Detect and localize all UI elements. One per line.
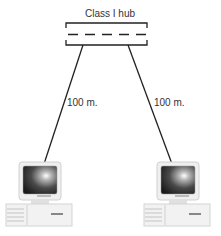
computer-right-icon bbox=[144, 162, 210, 226]
link-label-right: 100 m. bbox=[154, 97, 185, 108]
network-diagram bbox=[0, 0, 221, 236]
link-label-left: 100 m. bbox=[67, 97, 98, 108]
hub bbox=[66, 23, 147, 45]
computer-left-icon bbox=[6, 162, 72, 226]
hub-label: Class I hub bbox=[85, 8, 135, 19]
